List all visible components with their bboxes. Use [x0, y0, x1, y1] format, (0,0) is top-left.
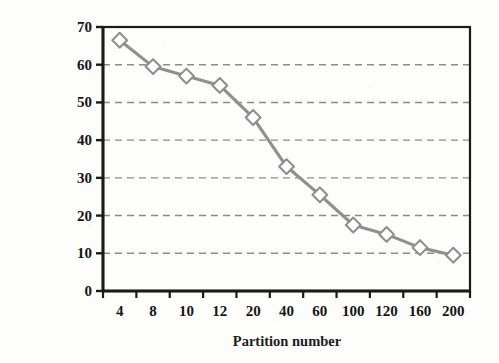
x-tick-label: 10: [179, 303, 194, 320]
data-point-marker: [446, 248, 461, 263]
x-tick-label: 40: [279, 303, 294, 320]
x-axis-title: Partition number: [103, 333, 471, 350]
y-tick-label: 20: [77, 207, 92, 224]
data-point-marker: [413, 240, 428, 255]
x-tick-label: 160: [409, 303, 432, 320]
x-tick-label: 4: [116, 303, 124, 320]
data-point-marker: [179, 69, 194, 84]
y-tick-label: 40: [77, 132, 92, 149]
x-tick-label: 120: [375, 303, 398, 320]
data-series-line: [120, 40, 454, 255]
y-tick-label: 50: [77, 94, 92, 111]
x-tick-label: 8: [149, 303, 157, 320]
x-tick-label: 60: [312, 303, 327, 320]
x-tick-label: 100: [342, 303, 365, 320]
x-tick-label: 12: [212, 303, 227, 320]
chart-figure: Size of conditional pattern bases per Pa…: [0, 0, 499, 363]
y-tick-label: 30: [77, 169, 92, 186]
y-tick-label: 60: [77, 56, 92, 73]
x-tick-label: 20: [246, 303, 261, 320]
y-tick-label: 70: [77, 19, 92, 36]
y-tick-label: 0: [85, 283, 93, 300]
x-tick-label: 200: [442, 303, 465, 320]
data-point-markers: [112, 33, 460, 263]
data-point-marker: [379, 227, 394, 242]
y-tick-label: 10: [77, 245, 92, 262]
